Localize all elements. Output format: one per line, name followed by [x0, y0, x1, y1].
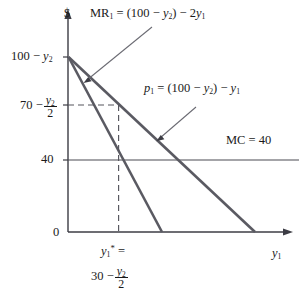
price-label-lhs-sub: 1	[150, 87, 154, 96]
mr-label-eq: =	[116, 6, 123, 20]
mr-label-minus-1: −	[153, 6, 160, 20]
origin-label: 0	[53, 226, 59, 239]
mr-label-lhs: MR	[90, 6, 109, 20]
ystar-star: *	[110, 243, 114, 253]
price-label-minus-2: −	[220, 81, 227, 95]
intercept-y-sub: 2	[49, 55, 53, 64]
y-axis-tick-label-price: 70 −y22	[20, 94, 58, 119]
mr-label-hundred: 100	[131, 6, 150, 20]
y-axis-tick-label-intercept: 100 − y2	[11, 50, 53, 63]
mr-label-lhs-sub: 1	[109, 12, 113, 21]
economics-diagram-figure: $ MR1 = (100 − y2) − 2y1 p1 = (100 − y2)…	[0, 0, 301, 303]
mc-label-eq: =	[249, 133, 256, 147]
intercept-minus: −	[33, 49, 40, 63]
price-tick-den: 2	[44, 106, 57, 119]
y-axis	[64, 9, 71, 232]
mr-curve-label: MR1 = (100 − y2) − 2y1	[90, 7, 205, 20]
ystarval-thirty: 30	[91, 269, 104, 283]
x-axis-title-sub: 1	[278, 252, 282, 261]
x-axis-tick-value-ystar: 30 −y22	[91, 265, 129, 290]
price-tick-seventy: 70	[20, 98, 33, 112]
price-label-y1-sub: 1	[236, 87, 240, 96]
x-axis	[68, 228, 293, 235]
mr-label-y1-sub: 1	[202, 12, 206, 21]
x-axis-title: y1	[272, 247, 281, 260]
price-label-hundred: 100	[172, 81, 191, 95]
y-axis-tick-label-mc: 40	[41, 153, 54, 166]
ystarval-minus: −	[107, 269, 114, 283]
mc-label-lhs: MC	[226, 133, 245, 147]
price-curve-label: p1 = (100 − y2) − y1	[144, 82, 240, 95]
mr-label-paren-close: )	[172, 6, 176, 20]
x-axis-tick-label-ystar: y1* =	[101, 245, 125, 258]
mc-line-label: MC = 40	[226, 134, 271, 147]
y-axis-title: $	[64, 7, 70, 19]
intercept-hundred: 100	[11, 49, 30, 63]
price-label-paren-close: )	[213, 81, 217, 95]
ystarval-den: 2	[115, 277, 128, 290]
ystar-eq: =	[118, 244, 125, 258]
price-label-minus-1: −	[193, 81, 200, 95]
ystarval-fraction: y22	[115, 265, 128, 290]
mr-label-minus-2: −	[180, 6, 187, 20]
mc-label-value: 40	[259, 133, 272, 147]
price-tick-minus: −	[36, 98, 43, 112]
price-leader-line	[156, 107, 196, 141]
price-tick-fraction: y22	[44, 94, 57, 119]
mr-leader-line	[84, 27, 153, 83]
price-label-eq: =	[157, 81, 164, 95]
